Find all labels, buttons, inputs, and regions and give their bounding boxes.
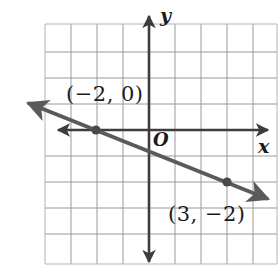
- x-axis-label: x: [258, 137, 269, 156]
- point-label-b: (3, −2): [168, 204, 246, 225]
- coordinate-plane-figure: (−2, 0) (3, −2) y x O: [0, 0, 278, 276]
- data-point-a: [91, 125, 100, 134]
- y-axis-label: y: [160, 6, 171, 25]
- data-point-b: [222, 177, 231, 186]
- origin-label: O: [153, 131, 169, 149]
- point-label-a: (−2, 0): [66, 84, 144, 105]
- plot-svg: [0, 0, 278, 276]
